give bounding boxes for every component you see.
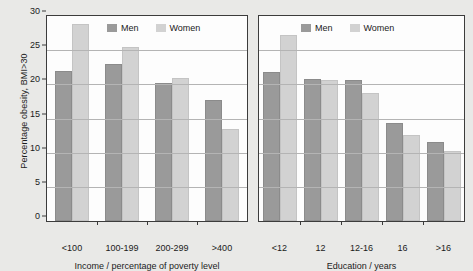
y-tick-label: 15 <box>30 109 40 119</box>
legend-label-men: Men <box>315 23 333 33</box>
bar-women[interactable] <box>122 47 139 221</box>
bar-women[interactable] <box>172 78 189 221</box>
gridline <box>47 50 247 51</box>
gridline <box>259 50 464 51</box>
bar-women[interactable] <box>362 93 379 221</box>
legend-label-women: Women <box>170 23 201 33</box>
legend-income: Men Women <box>107 23 200 33</box>
x-tick-label: 200-299 <box>147 243 197 257</box>
legend-swatch-women-icon <box>350 24 360 32</box>
y-tick-label: 5 <box>35 177 40 187</box>
x-tick-label: 100-199 <box>97 243 147 257</box>
y-tick-label: 25 <box>30 40 40 50</box>
bar-women[interactable] <box>321 80 338 221</box>
legend-label-women: Women <box>364 23 395 33</box>
gridline <box>47 84 247 85</box>
gridline <box>259 187 464 188</box>
x-tick-label: >16 <box>423 243 464 257</box>
legend-swatch-men-icon <box>107 24 117 32</box>
x-tick-label: 16 <box>382 243 423 257</box>
legend-label-men: Men <box>121 23 139 33</box>
x-tick-mark <box>197 221 198 225</box>
bar-men[interactable] <box>386 123 403 221</box>
x-ticks-education <box>259 221 464 225</box>
x-tick-label: 12 <box>300 243 341 257</box>
bar-men[interactable] <box>105 64 122 221</box>
y-tick-mark <box>42 11 46 12</box>
x-tick-labels-education: <121212-1616>16 <box>259 243 464 257</box>
bar-women[interactable] <box>72 24 89 221</box>
x-tick-label: 12-16 <box>341 243 382 257</box>
legend-swatch-men-icon <box>301 24 311 32</box>
legend-entry-men: Men <box>301 23 333 33</box>
x-tick-mark <box>97 221 98 225</box>
gridline <box>47 119 247 120</box>
gridline <box>47 153 247 154</box>
x-tick-mark <box>423 221 424 225</box>
x-tick-label: <100 <box>47 243 97 257</box>
gridline <box>259 84 464 85</box>
gridline <box>259 153 464 154</box>
y-tick-label: 30 <box>30 6 40 16</box>
bar-men[interactable] <box>304 79 321 221</box>
gridline <box>259 119 464 120</box>
x-axis-title-education: Education / years <box>259 261 464 271</box>
x-tick-labels-income: <100100-199200-299>400 <box>47 243 247 257</box>
panel-education: Men Women <121212-1616>16 Education / ye… <box>258 15 465 222</box>
x-tick-mark <box>341 221 342 225</box>
legend-entry-women: Women <box>350 23 395 33</box>
gridline <box>47 187 247 188</box>
panel-income: Men Women <100100-199200-299>400 Income … <box>46 15 248 222</box>
bar-women[interactable] <box>280 35 297 221</box>
x-ticks-income <box>47 221 247 225</box>
legend-swatch-women-icon <box>156 24 166 32</box>
x-tick-mark <box>147 221 148 225</box>
bar-men[interactable] <box>263 72 280 221</box>
bar-men[interactable] <box>55 71 72 221</box>
x-tick-mark <box>300 221 301 225</box>
y-tick-label: 20 <box>30 74 40 84</box>
y-tick-label: 0 <box>35 211 40 221</box>
x-tick-label: >400 <box>197 243 247 257</box>
bar-men[interactable] <box>345 80 362 221</box>
x-axis-title-income: Income / percentage of poverty level <box>47 261 247 271</box>
y-axis: 302520151050 <box>22 10 46 228</box>
legend-education: Men Women <box>301 23 394 33</box>
bar-women[interactable] <box>222 129 239 221</box>
bar-women[interactable] <box>403 135 420 221</box>
plot-area-income <box>47 16 247 221</box>
legend-entry-men: Men <box>107 23 139 33</box>
plot-area-education <box>259 16 464 221</box>
x-tick-label: <12 <box>259 243 300 257</box>
x-tick-mark <box>382 221 383 225</box>
y-tick-label: 10 <box>30 143 40 153</box>
legend-entry-women: Women <box>156 23 201 33</box>
